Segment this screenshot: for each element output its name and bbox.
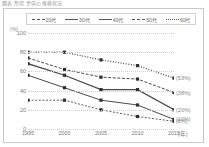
y-tick-label: 80 <box>6 49 26 55</box>
plot-area <box>28 33 174 129</box>
legend-line-icon-50 <box>132 19 145 20</box>
page-title: 図表 所得 世帯の推移状況 <box>0 0 209 7</box>
data-point <box>172 77 174 80</box>
legend-label-40: 40代 <box>113 16 124 23</box>
end-label-40代: (20%) <box>176 107 191 113</box>
legend-label-20: 20代 <box>46 16 57 23</box>
data-point <box>28 74 30 77</box>
x-axis-ticks: 19952000200520102015 <box>28 130 174 140</box>
y-tick-label: 100 <box>6 30 26 36</box>
data-point <box>28 62 30 65</box>
data-point <box>63 74 66 77</box>
legend-line-icon-60 <box>166 19 179 20</box>
gridline <box>28 33 174 34</box>
legend-line-icon-40 <box>99 19 112 20</box>
legend-label-60: 60代 <box>180 16 191 23</box>
series-line-50代 <box>28 58 174 93</box>
data-point <box>63 86 66 89</box>
data-point <box>28 56 30 59</box>
data-point <box>136 64 139 67</box>
y-tick-label: 60 <box>6 68 26 74</box>
gridline <box>28 71 174 72</box>
end-value-annotations: (53%)(38%)(20%)(10%)(8%) <box>176 33 209 133</box>
y-axis-ticks: 100806040200 <box>4 33 26 129</box>
data-point <box>172 120 174 123</box>
data-point <box>136 77 139 80</box>
data-point <box>136 115 139 118</box>
x-tick-label: 1995 <box>22 130 34 136</box>
gridline <box>28 91 174 92</box>
data-point <box>28 99 30 102</box>
data-point <box>99 76 102 79</box>
legend-line-icon-20 <box>32 19 45 20</box>
data-point <box>99 58 102 61</box>
x-tick-label: 2005 <box>95 130 107 136</box>
legend-item-40[interactable]: 40代 <box>99 16 124 23</box>
data-point <box>99 99 102 102</box>
legend-item-60[interactable]: 60代 <box>166 16 191 23</box>
end-label-20代: (8%) <box>176 118 188 124</box>
chart-frame: 20代 30代 40代 50代 60代 (%) 100806040200 199… <box>3 8 204 143</box>
data-point <box>63 99 66 102</box>
x-tick-label: 2010 <box>131 130 143 136</box>
legend-label-30: 30代 <box>79 16 90 23</box>
legend-item-30[interactable]: 30代 <box>65 16 90 23</box>
y-tick-label: 20 <box>6 107 26 113</box>
gridline <box>28 110 174 111</box>
gridline <box>28 52 174 53</box>
x-tick-label: 2000 <box>58 130 70 136</box>
chart-legend: 20代 30代 40代 50代 60代 <box>26 13 196 25</box>
legend-item-50[interactable]: 50代 <box>132 16 157 23</box>
legend-label-50: 50代 <box>146 16 157 23</box>
legend-item-20[interactable]: 20代 <box>32 16 57 23</box>
chart-svg <box>28 33 174 129</box>
end-label-60代: (53%) <box>176 75 191 81</box>
end-label-50代: (38%) <box>176 90 191 96</box>
y-tick-label: 40 <box>6 88 26 94</box>
data-point <box>136 103 139 106</box>
legend-line-icon-30 <box>65 19 78 20</box>
